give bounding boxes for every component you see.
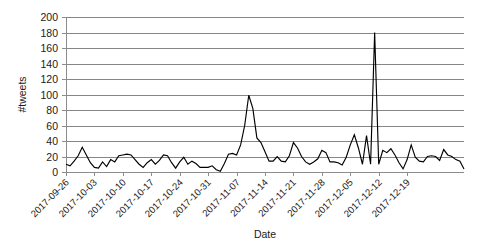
tweets-time-series-chart: 020406080100120140160180200 2017-09-2620…	[0, 0, 484, 249]
y-tick-label: 140	[40, 58, 58, 70]
y-tick-label: 180	[40, 27, 58, 39]
gridlines-group	[66, 18, 464, 158]
x-axis-tick-labels: 2017-09-262017-10-032017-10-102017-10-17…	[28, 176, 411, 219]
y-tick-label: 80	[46, 104, 58, 116]
y-tick-label: 200	[40, 11, 58, 23]
y-axis-title: #tweets	[16, 76, 28, 112]
y-tick-label: 0	[52, 166, 58, 178]
y-tick-label: 160	[40, 42, 58, 54]
y-tick-label: 60	[46, 120, 58, 132]
tweets-series-line	[66, 33, 464, 172]
y-axis-tick-labels: 020406080100120140160180200	[40, 11, 58, 178]
y-tick-label: 100	[40, 89, 58, 101]
y-tick-label: 40	[46, 135, 58, 147]
y-tick-label: 120	[40, 73, 58, 85]
x-axis-title: Date	[254, 228, 276, 240]
y-axis-tick-marks	[62, 18, 66, 173]
y-tick-label: 20	[46, 151, 58, 163]
chart-canvas: 020406080100120140160180200 2017-09-2620…	[0, 0, 484, 249]
